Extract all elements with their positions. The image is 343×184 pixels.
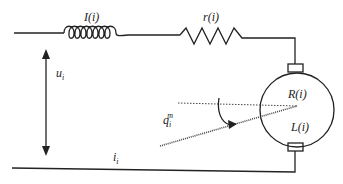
inductor-coil xyxy=(64,26,128,38)
angle-superscript: m xyxy=(167,111,173,120)
angle-label: qim xyxy=(163,112,173,129)
reference-axis-dotted xyxy=(178,103,297,106)
voltage-arrow-head-down xyxy=(42,146,50,156)
top-wire-right xyxy=(246,38,295,64)
inductor-label: I(i) xyxy=(84,11,99,23)
voltage-arrow-head-up xyxy=(42,49,50,59)
motor-inductance-label: L(i) xyxy=(291,121,309,133)
bottom-wire xyxy=(12,151,295,172)
voltage-label: ui xyxy=(56,67,64,82)
angle-arrow-head xyxy=(228,120,237,129)
motor-resistance-label: R(i) xyxy=(288,88,307,100)
current-label: ii xyxy=(113,151,119,166)
motor-top-brush xyxy=(288,64,303,72)
resistor-label: r(i) xyxy=(203,11,219,23)
resistor-zigzag xyxy=(180,28,246,44)
current-subscript: i xyxy=(116,157,118,166)
angle-subscript: i xyxy=(169,120,171,129)
motor-armature xyxy=(260,73,334,147)
voltage-subscript: i xyxy=(62,73,64,82)
